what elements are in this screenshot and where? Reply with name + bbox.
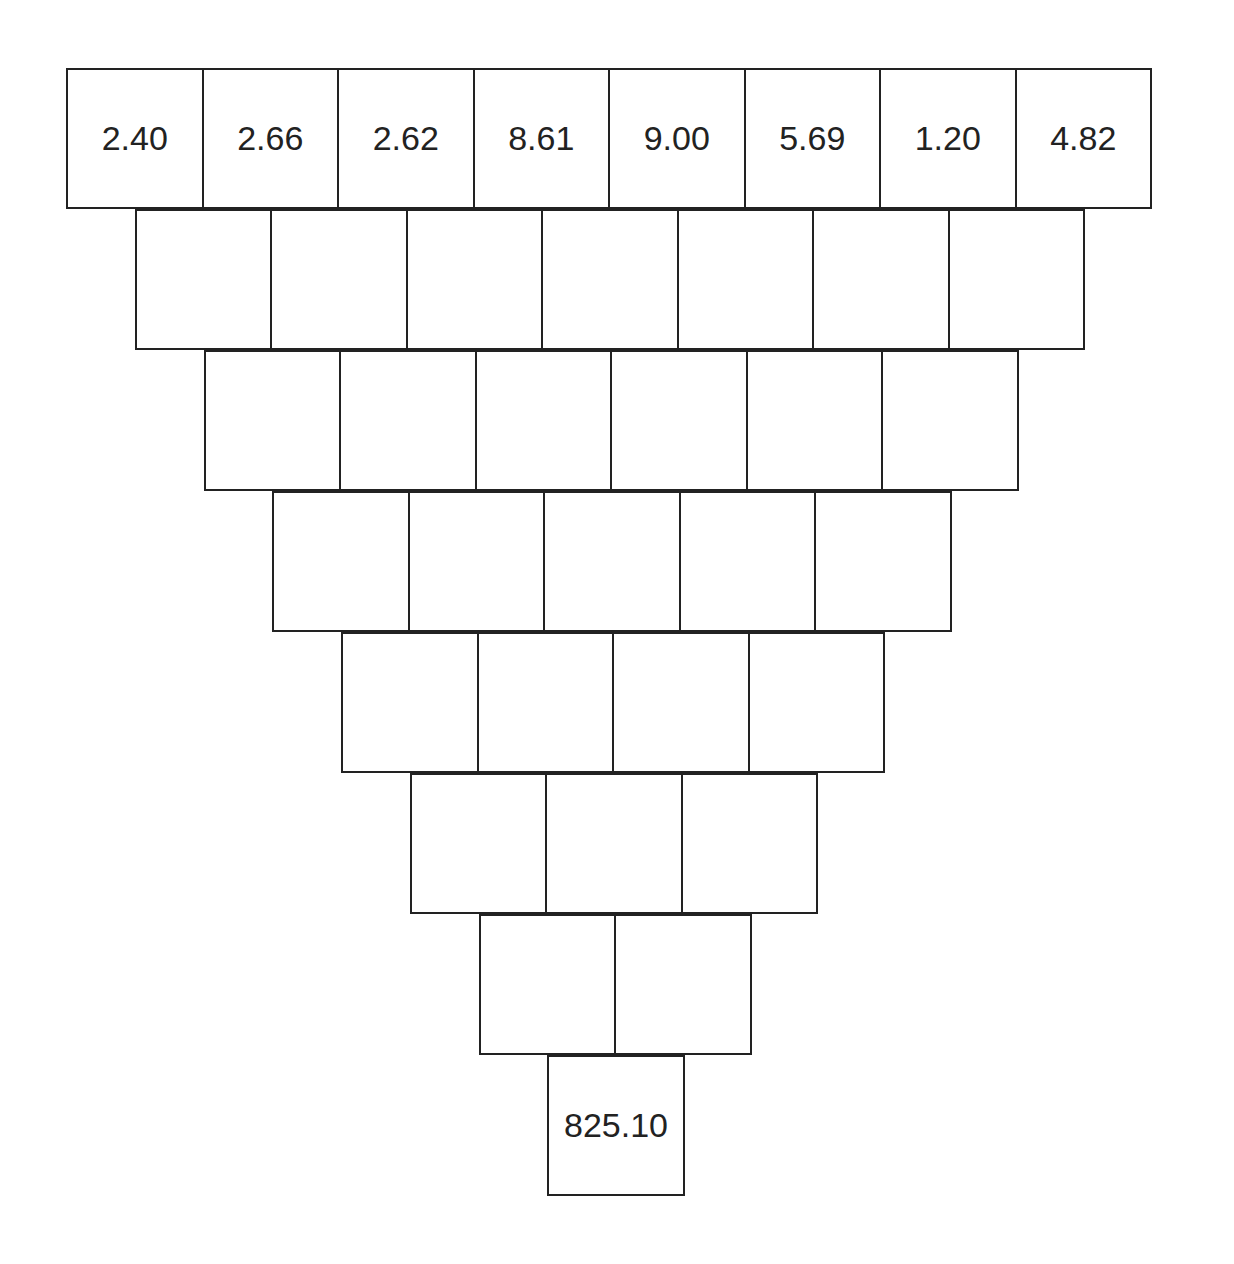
pyramid-cell (681, 773, 819, 914)
pyramid-cell: 9.00 (608, 68, 746, 209)
pyramid-row-5 (341, 632, 885, 773)
pyramid-cell: 4.82 (1015, 68, 1153, 209)
pyramid-cell: 8.61 (473, 68, 611, 209)
pyramid-cell (881, 350, 1019, 491)
pyramid-cell (543, 491, 681, 632)
pyramid-cell (812, 209, 950, 350)
pyramid-cell (610, 350, 748, 491)
pyramid-row-8: 825.10 (547, 1055, 685, 1196)
pyramid-row-7 (479, 914, 752, 1055)
pyramid-cell: 2.62 (337, 68, 475, 209)
pyramid-cell (341, 632, 479, 773)
pyramid-cell (204, 350, 342, 491)
pyramid-cell (339, 350, 477, 491)
pyramid-cell (475, 350, 613, 491)
pyramid-cell (545, 773, 683, 914)
pyramid-cell (612, 632, 750, 773)
pyramid-cell (748, 632, 886, 773)
pyramid-row-1: 2.402.662.628.619.005.691.204.82 (66, 68, 1152, 209)
pyramid-cell (541, 209, 679, 350)
pyramid-cell (614, 914, 752, 1055)
pyramid-cell (679, 491, 817, 632)
pyramid-cell: 1.20 (879, 68, 1017, 209)
pyramid-cell (677, 209, 815, 350)
pyramid-row-6 (410, 773, 819, 914)
pyramid-cell (272, 491, 410, 632)
pyramid-cell (948, 209, 1086, 350)
pyramid-cell (408, 491, 546, 632)
pyramid-row-3 (204, 350, 1019, 491)
pyramid-row-4 (272, 491, 952, 632)
pyramid-cell: 825.10 (547, 1055, 685, 1196)
pyramid-cell: 2.66 (202, 68, 340, 209)
pyramid-cell (746, 350, 884, 491)
pyramid-cell (406, 209, 544, 350)
pyramid-cell (270, 209, 408, 350)
pyramid-cell (410, 773, 548, 914)
pyramid-row-2 (135, 209, 1086, 350)
pyramid-cell (135, 209, 273, 350)
pyramid-cell: 2.40 (66, 68, 204, 209)
pyramid-cell (477, 632, 615, 773)
pyramid-cell: 5.69 (744, 68, 882, 209)
pyramid-cell (479, 914, 617, 1055)
pyramid-cell (814, 491, 952, 632)
